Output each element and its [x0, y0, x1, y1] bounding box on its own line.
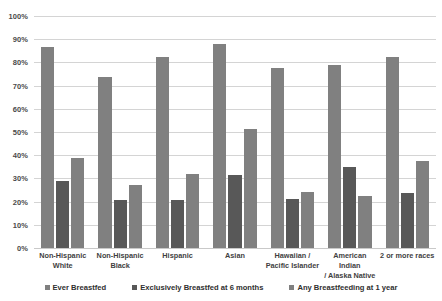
bar [244, 129, 257, 248]
legend-swatch-icon [45, 285, 50, 290]
x-axis-label-line2: Pacific Islander [265, 261, 320, 271]
y-axis-tick-label: 100% [8, 12, 28, 21]
x-axis-label-line2: / Alaska Native [322, 271, 377, 281]
bar [328, 65, 341, 248]
x-axis-label: Hispanic [149, 251, 206, 281]
x-axis-label-line1: Asian [225, 251, 245, 260]
bar-group [149, 16, 206, 248]
y-axis-tick-label: 40% [13, 151, 28, 160]
bar-group [206, 16, 263, 248]
x-axis-label-line1: American Indian [333, 251, 366, 270]
bar-group [264, 16, 321, 248]
axis-baseline [34, 248, 436, 249]
legend-swatch-icon [132, 285, 137, 290]
bar [56, 181, 69, 248]
legend-item[interactable]: Exclusively Breastfed at 6 months [132, 283, 263, 292]
bar [271, 68, 284, 248]
bar-group [91, 16, 148, 248]
y-axis-tick-label: 20% [13, 197, 28, 206]
x-axis-label-line1: Non-Hispanic [39, 251, 86, 260]
y-axis-tick-label: 50% [13, 128, 28, 137]
legend-label: Exclusively Breastfed at 6 months [140, 283, 263, 292]
bar [129, 185, 142, 248]
bar [114, 200, 127, 248]
legend-label: Any Breastfeeding at 1 year [297, 283, 397, 292]
legend-item[interactable]: Any Breastfeeding at 1 year [289, 283, 397, 292]
legend-label: Ever Breastfed [53, 283, 107, 292]
x-axis-label-line1: Hawaiian / [275, 251, 311, 260]
bar [213, 44, 226, 248]
x-axis-label: Non-HispanicBlack [91, 251, 148, 281]
x-axis-label: Asian [206, 251, 263, 281]
bar [343, 167, 356, 248]
y-axis-tick-label: 90% [13, 35, 28, 44]
x-axis-label-line1: Hispanic [162, 251, 192, 260]
bar [98, 77, 111, 248]
x-axis-label: Non-HispanicWhite [34, 251, 91, 281]
y-axis-tick-label: 60% [13, 104, 28, 113]
legend-swatch-icon [289, 285, 294, 290]
x-axis-label-line1: 2 or more races [380, 251, 434, 260]
x-axis-label: American Indian/ Alaska Native [321, 251, 378, 281]
x-axis-label: 2 or more races [379, 251, 436, 281]
y-axis-tick-label: 0% [17, 244, 28, 253]
bar-groups [34, 16, 436, 248]
y-axis-tick-label: 70% [13, 81, 28, 90]
bar [186, 174, 199, 248]
bar [301, 192, 314, 248]
bar-group [321, 16, 378, 248]
y-axis-tick-label: 10% [13, 220, 28, 229]
x-axis-label: Hawaiian /Pacific Islander [264, 251, 321, 281]
breastfeeding-bar-chart: 100%90%80%70%60%50%40%30%20%10%0% Non-Hi… [0, 0, 442, 301]
y-axis-tick-label: 80% [13, 58, 28, 67]
bar [228, 175, 241, 248]
bar [386, 57, 399, 248]
y-axis: 100%90%80%70%60%50%40%30%20%10%0% [0, 16, 32, 248]
x-axis-label-line2: White [35, 261, 90, 271]
bar [71, 158, 84, 248]
x-axis-label-line2: Black [92, 261, 147, 271]
bar [156, 57, 169, 248]
bar [401, 193, 414, 248]
bar-group [34, 16, 91, 248]
bar [286, 199, 299, 248]
legend-item[interactable]: Ever Breastfed [45, 283, 107, 292]
bar [171, 200, 184, 248]
bar [41, 47, 54, 248]
chart-legend: Ever BreastfedExclusively Breastfed at 6… [0, 283, 442, 292]
bar [416, 161, 429, 248]
x-axis-labels: Non-HispanicWhiteNon-HispanicBlackHispan… [34, 251, 436, 281]
x-axis-label-line1: Non-Hispanic [97, 251, 144, 260]
y-axis-tick-label: 30% [13, 174, 28, 183]
bar [358, 196, 371, 248]
plot-area [34, 16, 436, 248]
bar-group [379, 16, 436, 248]
